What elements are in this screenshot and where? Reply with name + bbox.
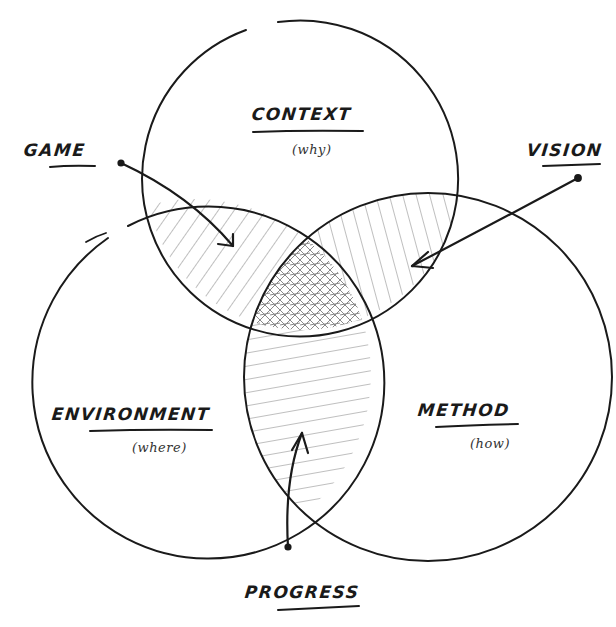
center-region [0, 0, 616, 627]
venn-diagram [0, 0, 616, 627]
context-label: CONTEXT [251, 104, 353, 124]
environment-sublabel: (where) [132, 440, 187, 455]
method-sublabel: (how) [470, 436, 510, 451]
vision-label: VISION [526, 140, 604, 160]
context-sublabel: (why) [292, 142, 332, 157]
method-label: METHOD [417, 400, 511, 420]
game-label: GAME [23, 140, 87, 160]
environment-label: ENVIRONMENT [51, 404, 211, 424]
progress-label: PROGRESS [244, 582, 361, 602]
